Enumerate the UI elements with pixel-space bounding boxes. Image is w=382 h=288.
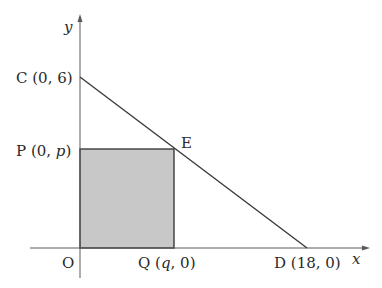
point-p-label: P (0, p) [16, 142, 71, 160]
point-p-var: p [56, 142, 66, 160]
point-e-label: E [181, 134, 192, 152]
point-q-coords-suffix: , 0) [171, 254, 196, 272]
point-d-label: D (18, 0) [274, 254, 341, 272]
point-p-coords-suffix: ) [65, 142, 71, 160]
point-q-name: Q [138, 254, 150, 272]
y-axis-label: y [63, 18, 73, 36]
origin-label: O [62, 254, 74, 272]
coordinate-diagram: y x O C (0, 6) P (0, p) E Q (q, 0) D (18… [0, 0, 382, 288]
shaded-rectangle-opeq [80, 149, 174, 248]
point-q-var: q [161, 254, 171, 272]
point-c-label: C (0, 6) [16, 69, 73, 87]
y-axis-arrow-icon [78, 14, 83, 22]
point-d-name: D [274, 254, 286, 272]
x-axis-label: x [352, 250, 361, 268]
point-c-name: C [16, 69, 27, 87]
point-p-coords-prefix: (0, [31, 142, 56, 160]
point-p-name: P [16, 142, 26, 160]
point-q-label: Q (q, 0) [138, 254, 196, 272]
point-d-coords: (18, 0) [291, 254, 341, 272]
x-axis-arrow-icon [362, 246, 370, 251]
point-c-coords: (0, 6) [32, 69, 72, 87]
